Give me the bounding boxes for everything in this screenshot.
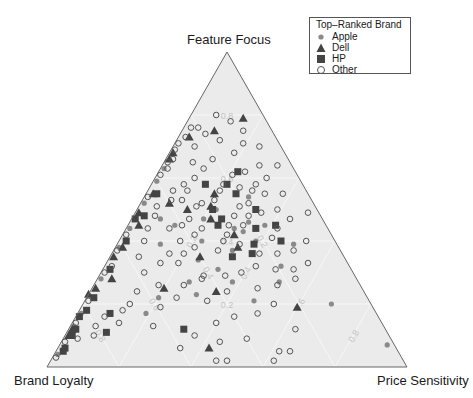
point-apple <box>143 311 148 316</box>
point-apple <box>201 216 206 221</box>
point-apple <box>127 226 132 231</box>
point-apple <box>291 242 296 247</box>
grid-label-feature: 0.2 <box>221 300 234 310</box>
point-apple <box>278 264 283 269</box>
triangle-background <box>47 52 407 367</box>
point-apple <box>230 279 235 284</box>
point-apple <box>385 342 390 347</box>
point-apple <box>194 292 199 297</box>
legend-item-hp: HP <box>316 53 346 64</box>
point-hp <box>215 222 222 229</box>
legend-item-apple: Apple <box>316 31 358 42</box>
vertex-label-bottom-left: Brand Loyalty <box>14 373 94 388</box>
point-apple <box>251 298 256 303</box>
point-hp <box>209 206 216 213</box>
filled-circle-icon <box>316 32 326 42</box>
point-apple <box>158 216 163 221</box>
vertex-label-top: Feature Focus <box>187 32 271 47</box>
open-circle-icon <box>316 65 326 75</box>
point-hp <box>83 307 90 314</box>
point-apple <box>158 242 163 247</box>
point-hp <box>251 241 258 248</box>
legend-item-other: Other <box>316 64 357 75</box>
filled-triangle-icon <box>316 43 326 53</box>
point-hp <box>123 238 130 245</box>
point-apple <box>329 301 334 306</box>
point-apple <box>199 238 204 243</box>
vertex-label-bottom-right: Price Sensitivity <box>377 373 469 388</box>
legend-item-dell: Dell <box>316 42 349 53</box>
point-apple <box>187 279 192 284</box>
legend-title: Top–Ranked Brand <box>316 19 402 30</box>
point-hp <box>153 190 160 197</box>
point-hp <box>103 329 110 336</box>
point-hp <box>252 225 259 232</box>
point-apple <box>172 223 177 228</box>
point-apple <box>215 267 220 272</box>
point-apple <box>246 194 251 199</box>
point-hp <box>229 253 236 260</box>
point-apple <box>98 276 103 281</box>
point-apple <box>262 223 267 228</box>
point-apple <box>142 201 147 206</box>
filled-square-icon <box>316 54 326 64</box>
point-hp <box>141 212 148 219</box>
point-hp <box>72 326 79 333</box>
legend: Top–Ranked Brand Apple Dell HP Other <box>309 17 411 74</box>
point-hp <box>233 190 240 197</box>
point-hp <box>180 326 187 333</box>
grid-label-feature: 0.8 <box>221 111 234 121</box>
point-hp <box>60 348 67 355</box>
point-apple <box>246 220 251 225</box>
point-hp <box>218 215 225 222</box>
point-apple <box>154 179 159 184</box>
point-hp <box>249 250 256 257</box>
point-apple <box>241 229 246 234</box>
point-hp <box>278 238 285 245</box>
point-hp <box>202 181 209 188</box>
point-apple <box>156 295 161 300</box>
